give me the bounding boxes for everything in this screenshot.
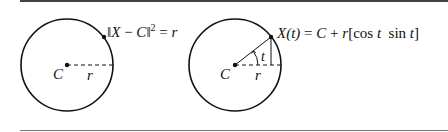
right-equation: X(t) = C + r[cos t sin t] xyxy=(277,26,419,41)
var-C: C xyxy=(136,24,146,40)
right-point-on-circle xyxy=(269,35,273,39)
sin-fn: sin xyxy=(381,25,410,41)
cos-fn: cos xyxy=(353,25,377,41)
equals-sign: = xyxy=(156,24,172,40)
left-equation: ‖X − C‖2 = r xyxy=(107,23,177,40)
lhs-X-of-t: X(t) xyxy=(277,25,300,41)
var-r: r xyxy=(172,24,178,40)
var-C: C xyxy=(316,25,326,41)
left-circle-diagram xyxy=(21,19,113,111)
var-X: X xyxy=(111,24,120,40)
bracket-close: ] xyxy=(414,25,419,41)
minus-sign: − xyxy=(120,24,136,40)
angle-arc xyxy=(253,51,258,65)
left-point-on-circle xyxy=(102,35,106,39)
left-radius-label: r xyxy=(87,68,93,83)
right-radius-label: r xyxy=(255,68,261,83)
right-circle-diagram xyxy=(189,19,281,111)
angle-label: t xyxy=(261,50,265,64)
plus-sign: + xyxy=(326,25,342,41)
left-center-label: C xyxy=(53,67,63,82)
equals-sign: = xyxy=(300,25,316,41)
right-center-label: C xyxy=(220,67,230,82)
